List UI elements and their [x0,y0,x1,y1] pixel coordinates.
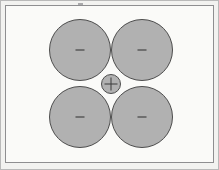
center-marker-top-right [138,49,147,51]
drawing-inner-frame [5,5,214,163]
center-marker-bottom-right [138,116,147,118]
crosshair-icon-vertical [111,78,112,91]
drawing-canvas [0,0,219,170]
center-marker-top-left [76,49,85,51]
center-marker-bottom-left [76,116,85,118]
